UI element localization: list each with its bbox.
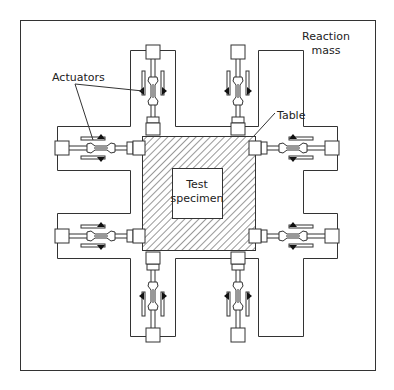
actuator-top-right — [224, 45, 252, 135]
actuators-leader-1 — [75, 84, 143, 91]
actuator-right-lower — [249, 222, 339, 250]
actuator-top-left — [139, 45, 167, 135]
actuator-bottom-right — [224, 252, 252, 342]
actuator-left-upper — [55, 134, 145, 162]
shake-table-diagram: Reaction mass Actuators Table Test speci… — [0, 0, 394, 390]
table-leader — [253, 113, 275, 137]
label-reaction-mass-2: mass — [312, 44, 341, 57]
label-specimen-1: Test — [185, 178, 208, 191]
label-actuators: Actuators — [52, 71, 105, 84]
label-reaction-mass-1: Reaction — [302, 30, 350, 43]
label-specimen-2: specimen — [170, 192, 223, 205]
actuator-left-lower — [55, 222, 145, 250]
actuators-leader-2 — [75, 84, 93, 140]
actuator-bottom-left — [139, 252, 167, 342]
label-table: Table — [276, 109, 306, 122]
actuator-right-upper — [249, 134, 339, 162]
